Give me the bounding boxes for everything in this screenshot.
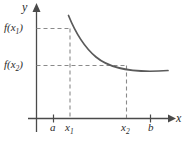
x-tick-label-x1: x1	[65, 122, 74, 136]
x-tick-a-main: a	[50, 121, 56, 133]
y-axis-arrowhead	[33, 3, 41, 12]
f-x2-main: f(x	[4, 58, 16, 70]
f-x2-close: )	[19, 58, 23, 70]
x-tick-b-main: b	[148, 121, 154, 133]
y-value-label-f-x2: f(x2)	[4, 59, 23, 73]
x-tick-label-a: a	[50, 122, 56, 136]
x-tick-label-x2: x2	[121, 122, 130, 136]
x-tick-x2-subscript: 2	[126, 127, 130, 136]
function-graph-figure: y x f(x1) f(x2) a x1 x2 b	[0, 0, 184, 149]
caption-fragment-strip	[0, 139, 184, 149]
f-x1-main: f(x	[4, 21, 16, 33]
function-curve	[69, 16, 169, 72]
x-axis-arrowhead	[168, 115, 176, 123]
y-value-label-f-x1: f(x1)	[4, 22, 23, 36]
x-axis-label: x	[176, 112, 181, 124]
y-axis-label: y	[22, 1, 27, 13]
f-x1-close: )	[19, 21, 23, 33]
x-tick-label-b: b	[148, 122, 154, 136]
x-tick-x1-subscript: 1	[70, 127, 74, 136]
graph-canvas	[0, 0, 184, 149]
